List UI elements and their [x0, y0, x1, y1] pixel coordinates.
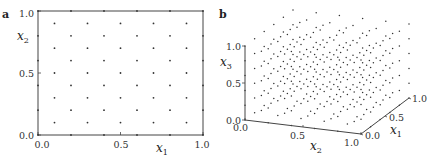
panel-b-point-231	[330, 118, 332, 120]
panel-b-point-188	[315, 56, 317, 58]
panel-b-point-29	[337, 56, 339, 58]
panel-b-point-130	[343, 47, 345, 49]
panel-a-point-29	[169, 10, 171, 12]
panel-b-point-197	[339, 15, 341, 17]
panel-a-point-19	[136, 109, 138, 111]
panel-b-point-221	[284, 112, 286, 114]
panel-b-point-140	[389, 82, 391, 84]
panel-b-point-87	[310, 66, 312, 68]
panel-b-point-315	[382, 40, 384, 42]
panel-b-point-212	[408, 68, 410, 70]
panel-b-point-131	[343, 32, 345, 34]
panel-b-point-277	[326, 86, 328, 88]
panel-a-point-15	[103, 60, 105, 62]
panel-b-point-314	[382, 55, 384, 57]
panel-b-point-56	[323, 91, 325, 93]
panel-b-point-269	[280, 51, 282, 53]
panel-b-point-139	[389, 97, 391, 99]
panel-b-point-63	[347, 79, 349, 81]
panel-b-point-327	[345, 72, 347, 74]
panel-b-point-57	[323, 76, 325, 78]
panel-b-point-283	[349, 74, 351, 76]
panel-b-point-80	[287, 78, 289, 80]
panel-b-point-119	[296, 26, 298, 28]
panel-b-point-92	[333, 84, 335, 86]
panel-a-point-32	[202, 85, 204, 87]
panel-b-point-331	[369, 89, 371, 91]
panel-b-point-68	[370, 96, 372, 98]
panel-a-point-42	[87, 97, 89, 99]
panel-b-point-26	[337, 101, 339, 103]
panel-b-point-192	[339, 89, 341, 91]
panel-b-point-300	[313, 32, 315, 34]
panel-b-point-198	[362, 92, 364, 94]
panel-b-point-308	[359, 67, 361, 69]
panel-b-point-274	[303, 54, 305, 56]
panel-b-x2label: x2	[310, 139, 322, 155]
panel-b-point-121	[319, 88, 321, 90]
panel-b-point-297	[313, 76, 315, 78]
panel-b-point-267	[280, 80, 282, 82]
panel-b-point-14	[291, 95, 293, 97]
panel-b-point-129	[343, 62, 345, 64]
panel-b-point-142	[389, 52, 391, 54]
panel-b-x1tick-mark-2	[409, 98, 411, 99]
panel-b-point-278	[326, 71, 328, 73]
panel-b-point-134	[366, 79, 368, 81]
panel-b-point-67	[370, 111, 372, 113]
panel-b-point-51	[300, 73, 302, 75]
panel-b-point-10	[267, 63, 269, 65]
panel-b-point-338	[392, 62, 394, 64]
panel-b-point-202	[362, 32, 364, 34]
panel-a-point-30	[202, 134, 204, 136]
panel-b-point-91	[333, 98, 335, 100]
panel-b-point-61	[347, 108, 349, 110]
panel-b-point-62	[347, 94, 349, 96]
panel-b-point-161	[329, 22, 331, 24]
panel-b-point-249	[293, 61, 295, 63]
panel-b: b 1.0 0.5 0.0 x3 0.0 0.5 1.0 x2 0.0 0.5 …	[219, 8, 427, 155]
panel-b-point-213	[408, 53, 410, 55]
panel-b-point-207	[385, 50, 387, 52]
panel-b-point-248	[293, 76, 295, 78]
panel-b-point-205	[385, 80, 387, 82]
panel-b-point-203	[362, 18, 364, 20]
panel-b-point-90	[333, 113, 335, 115]
panel-b-point-306	[359, 96, 361, 98]
panel-a-point-35	[202, 10, 204, 12]
panel-b-point-258	[340, 81, 342, 83]
panel-b-point-143	[389, 38, 391, 40]
panel-a-point-31	[202, 109, 204, 111]
panel-b-point-201	[362, 47, 364, 49]
panel-b-point-289	[373, 62, 375, 64]
panel-b-point-217	[261, 95, 263, 97]
panel-b-point-128	[343, 76, 345, 78]
panel-b-point-20	[314, 98, 316, 100]
panel-b-point-111	[273, 53, 275, 55]
panel-b-label: b	[219, 8, 227, 21]
panel-b-point-319	[299, 36, 301, 38]
panel-b-x3tick-05: 0.5	[226, 78, 241, 89]
panel-b-point-123	[319, 59, 321, 61]
panel-a-ytick-1: 1.0	[19, 8, 34, 19]
panel-b-point-304	[336, 49, 338, 51]
panel-a-point-12	[103, 134, 105, 136]
panel-b-point-275	[303, 39, 305, 41]
panel-b-point-86	[310, 81, 312, 83]
panel-b-point-237	[353, 106, 355, 108]
panel-b-point-49	[300, 103, 302, 105]
panel-b-point-101	[356, 42, 358, 44]
panel-b-point-244	[270, 58, 272, 60]
panel-b-point-225	[284, 53, 286, 55]
panel-a-point-38	[54, 72, 56, 74]
panel-b-point-219	[261, 65, 263, 67]
panel-b-point-157	[329, 81, 331, 83]
panel-b-point-220	[261, 50, 263, 52]
panel-b-point-333	[369, 60, 371, 62]
panel-b-point-15	[291, 80, 293, 82]
panel-a-point-24	[169, 134, 171, 136]
panel-b-point-54	[323, 120, 325, 122]
panel-a-point-17	[103, 10, 105, 12]
panel-b-point-45	[277, 70, 279, 72]
panel-b-point-206	[385, 65, 387, 67]
